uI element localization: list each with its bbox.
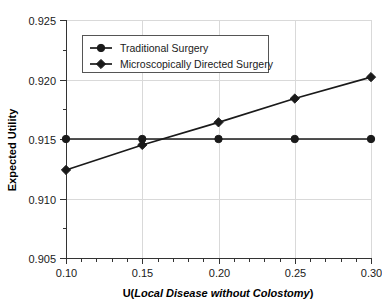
legend-label: Microscopically Directed Surgery	[120, 58, 274, 70]
chart-figure: 0.9050.9100.9150.9200.925 0.100.150.200.…	[0, 0, 382, 306]
x-axis-title-prefix: U(	[123, 287, 135, 299]
x-tick-label: 0.20	[209, 267, 230, 279]
y-tick-label: 0.920	[28, 75, 56, 87]
x-axis-title-suffix: )	[310, 287, 314, 299]
data-point-marker	[215, 135, 222, 142]
expected-utility-line-chart: 0.9050.9100.9150.9200.925 0.100.150.200.…	[0, 0, 382, 306]
y-axis-title: Expected Utility	[6, 108, 18, 191]
chart-legend[interactable]: Traditional SurgeryMicroscopically Direc…	[83, 36, 274, 73]
data-point-marker	[291, 135, 298, 142]
x-tick-label: 0.10	[56, 267, 77, 279]
x-axis-title: U(Local Disease without Colostomy)	[123, 287, 314, 299]
y-tick-label: 0.925	[28, 15, 56, 27]
x-axis-title-emphasis: Local Disease without Colostomy	[134, 287, 310, 299]
data-point-marker	[367, 135, 374, 142]
legend-label: Traditional Surgery	[120, 42, 209, 54]
x-tick-label: 0.15	[132, 267, 153, 279]
data-point-marker	[62, 135, 69, 142]
y-tick-label: 0.910	[28, 194, 56, 206]
legend-marker-circle	[97, 44, 104, 51]
x-tick-label: 0.25	[285, 267, 306, 279]
y-tick-label: 0.905	[28, 253, 56, 265]
x-tick-label: 0.30	[361, 267, 382, 279]
y-tick-label: 0.915	[28, 134, 56, 146]
